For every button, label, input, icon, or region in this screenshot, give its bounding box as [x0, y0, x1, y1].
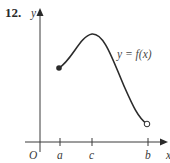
tick-label-b: b	[145, 149, 151, 161]
tick-label-a: a	[57, 149, 63, 161]
graph-figure: 12. y x O a c b y = f(x)	[0, 0, 170, 163]
function-label: y = f(x)	[116, 48, 152, 61]
x-axis-label: x	[165, 149, 170, 161]
graph-canvas: 12. y x O a c b y = f(x)	[0, 0, 170, 163]
problem-number: 12.	[5, 5, 21, 20]
tick-label-c: c	[89, 149, 94, 161]
closed-endpoint-dot	[56, 65, 62, 71]
origin-label: O	[29, 149, 38, 161]
y-axis-label: y	[30, 7, 37, 20]
open-endpoint-circle	[144, 121, 150, 127]
